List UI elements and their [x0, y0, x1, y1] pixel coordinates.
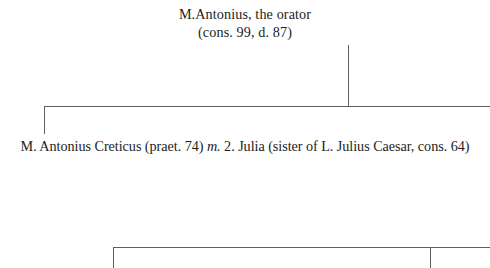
connector-drop-generation-3-left	[113, 247, 114, 268]
genealogical-stemma: M.Antonius, the orator (cons. 99, d. 87)…	[0, 0, 490, 268]
node-antonius-orator: M.Antonius, the orator (cons. 99, d. 87)	[0, 5, 490, 42]
connector-bar-generation-3	[113, 247, 490, 248]
connector-drop-generation-3-right	[430, 247, 431, 268]
node-antonius-creticus-spouse: 2. Julia (sister of L. Julius Caesar, co…	[224, 138, 469, 154]
connector-drop-generation-2-left	[44, 106, 45, 134]
node-antonius-orator-name: M.Antonius, the orator	[0, 5, 490, 23]
node-antonius-orator-detail: (cons. 99, d. 87)	[0, 23, 490, 41]
node-antonius-creticus-person: M. Antonius Creticus (praet. 74)	[21, 138, 204, 154]
marriage-mark: m.	[207, 138, 221, 154]
connector-stem-root	[348, 45, 349, 106]
connector-bar-generation-2	[44, 106, 490, 107]
node-antonius-creticus: M. Antonius Creticus (praet. 74) m. 2. J…	[0, 137, 490, 155]
